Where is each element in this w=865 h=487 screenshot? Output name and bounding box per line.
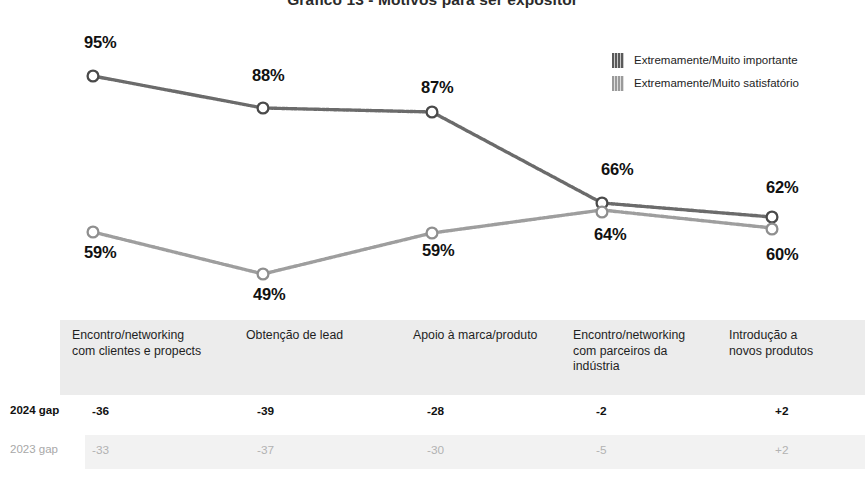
gap-row-2023-band bbox=[85, 435, 865, 469]
category-label-0-line2: com clientes e propects bbox=[72, 344, 222, 360]
data-label-importante-4: 62% bbox=[766, 178, 798, 197]
gap-value-2023-1: -37 bbox=[257, 443, 274, 457]
category-label-1: Obtenção de lead bbox=[246, 328, 396, 344]
legend-swatch-icon bbox=[612, 53, 624, 68]
data-label-importante-0: 95% bbox=[84, 33, 116, 52]
gap-row-2024-label: 2024 gap bbox=[10, 404, 59, 416]
data-label-satisfatorio-0: 59% bbox=[84, 243, 116, 262]
category-label-4-line1: Introdução a bbox=[729, 328, 859, 344]
category-header-band: Encontro/networking com clientes e prope… bbox=[60, 320, 865, 395]
gap-value-2023-3: -5 bbox=[596, 443, 607, 457]
line-chart-svg bbox=[0, 0, 865, 320]
data-label-importante-2: 87% bbox=[421, 78, 453, 97]
data-point-marker bbox=[427, 228, 438, 239]
gap-row-2024: 2024 gap -36 -39 -28 -2 +2 bbox=[0, 396, 865, 430]
data-point-marker bbox=[88, 227, 99, 238]
data-point-marker bbox=[767, 224, 778, 235]
gap-value-2024-0: -36 bbox=[92, 404, 109, 418]
gap-row-2023: 2023 gap -33 -37 -30 -5 +2 bbox=[0, 435, 865, 469]
gap-value-2024-3: -2 bbox=[596, 404, 607, 418]
chart-plot-area: 95% 88% 87% 66% 62% 59% 49% 59% 64% 60% … bbox=[0, 0, 865, 320]
legend-item-importante[interactable]: Extremamente/Muito importante bbox=[612, 50, 862, 70]
data-point-marker bbox=[258, 103, 269, 114]
series-line-importante bbox=[93, 76, 772, 217]
data-label-importante-1: 88% bbox=[252, 66, 284, 85]
category-label-3-line3: indústria bbox=[573, 359, 723, 375]
data-point-marker bbox=[767, 212, 778, 223]
legend-label-satisfatorio: Extremamente/Muito satisfatório bbox=[634, 77, 799, 89]
gap-value-2024-2: -28 bbox=[427, 404, 444, 418]
category-label-3-line2: com parceiros da bbox=[573, 344, 723, 360]
category-label-1-line1: Obtenção de lead bbox=[246, 328, 396, 344]
data-point-marker bbox=[258, 269, 269, 280]
category-label-4: Introdução a novos produtos bbox=[729, 328, 859, 359]
category-label-0: Encontro/networking com clientes e prope… bbox=[72, 328, 222, 359]
gap-value-2023-2: -30 bbox=[427, 443, 444, 457]
data-point-marker bbox=[427, 107, 438, 118]
chart-legend: Extremamente/Muito importante Extremamen… bbox=[612, 50, 862, 96]
category-label-2-line1: Apoio à marca/produto bbox=[413, 328, 573, 344]
category-label-3-line1: Encontro/networking bbox=[573, 328, 723, 344]
gap-value-2024-4: +2 bbox=[775, 404, 788, 418]
data-label-satisfatorio-4: 60% bbox=[766, 245, 798, 264]
gap-value-2024-1: -39 bbox=[257, 404, 274, 418]
data-label-satisfatorio-2: 59% bbox=[422, 241, 454, 260]
category-label-0-line1: Encontro/networking bbox=[72, 328, 222, 344]
gap-row-2023-label: 2023 gap bbox=[10, 443, 58, 455]
data-label-satisfatorio-3: 64% bbox=[594, 225, 626, 244]
data-label-importante-3: 66% bbox=[601, 160, 633, 179]
legend-item-satisfatorio[interactable]: Extremamente/Muito satisfatório bbox=[612, 73, 862, 93]
legend-label-importante: Extremamente/Muito importante bbox=[634, 54, 798, 66]
gap-value-2023-4: +2 bbox=[775, 443, 788, 457]
category-label-4-line2: novos produtos bbox=[729, 344, 859, 360]
data-label-satisfatorio-1: 49% bbox=[253, 285, 285, 304]
legend-swatch-icon bbox=[612, 76, 624, 91]
data-point-marker bbox=[88, 71, 99, 82]
gap-value-2023-0: -33 bbox=[92, 443, 109, 457]
category-label-2: Apoio à marca/produto bbox=[413, 328, 573, 344]
category-label-3: Encontro/networking com parceiros da ind… bbox=[573, 328, 723, 375]
data-point-marker bbox=[597, 207, 608, 218]
